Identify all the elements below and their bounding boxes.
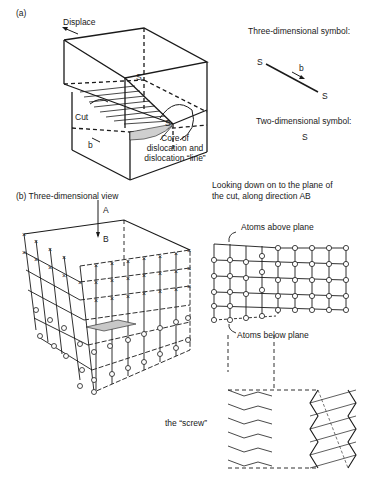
two-d-symbol-title: Two-dimensional symbol: <box>256 116 351 126</box>
svg-text:×: × <box>142 255 146 262</box>
three-d-dislocation-line <box>266 64 318 92</box>
cut-label: Cut <box>75 112 88 122</box>
core-label-line-3: dislocation “line” <box>135 153 215 163</box>
burgers-vector-arrow-icon <box>92 138 100 142</box>
svg-text:×: × <box>142 272 146 279</box>
svg-text:×: × <box>34 256 38 263</box>
svg-text:×: × <box>174 268 178 275</box>
svg-text:×: × <box>126 275 130 282</box>
panel-b-label: (b) Three-dimensional view <box>16 191 118 201</box>
svg-text:×: × <box>48 246 52 253</box>
svg-text:×: × <box>187 265 191 272</box>
svg-text:×: × <box>22 231 26 238</box>
svg-text:×: × <box>174 250 178 257</box>
looking-down-line-2: the cut, along direction AB <box>212 191 311 201</box>
three-d-s2: S <box>322 91 328 101</box>
looking-down-line-1: Looking down on to the plane of <box>212 180 333 190</box>
atoms-above-label: Atoms above plane <box>241 222 314 232</box>
atoms-above-pointer-icon <box>229 232 236 242</box>
svg-text:×: × <box>62 272 66 279</box>
direction-b-label: B <box>103 234 109 244</box>
svg-text:×: × <box>187 247 191 254</box>
s-top-label: S <box>136 72 142 82</box>
burgers-b-label: b <box>88 140 93 150</box>
cut-arrow-icon <box>90 99 108 104</box>
lattice-3d-view <box>24 200 190 392</box>
svg-text:×: × <box>110 295 114 302</box>
svg-text:×: × <box>126 293 130 300</box>
three-d-symbol-title: Three-dimensional symbol: <box>248 26 350 36</box>
svg-text:×: × <box>94 279 98 286</box>
svg-text:×: × <box>94 297 98 304</box>
screw-label: the “screw” <box>165 418 207 428</box>
svg-text:×: × <box>187 283 191 290</box>
svg-text:×: × <box>78 279 82 286</box>
two-d-s: S <box>302 132 308 142</box>
svg-text:×: × <box>94 262 98 269</box>
plan-view-atoms <box>211 245 348 322</box>
direction-a-label: A <box>103 205 109 215</box>
svg-text:×: × <box>142 290 146 297</box>
helix-screw-drawing <box>310 390 356 468</box>
diagram-artwork: ×××× ××××× ××××××× ××××××× ××××××× <box>0 0 374 487</box>
svg-text:×: × <box>158 253 162 260</box>
atoms-below-pointer-icon <box>229 324 236 333</box>
displace-label: Displace <box>63 17 96 27</box>
svg-text:×: × <box>158 288 162 295</box>
three-d-b: b <box>299 63 304 73</box>
three-d-s1: S <box>257 57 263 67</box>
s-core-label: S <box>165 118 171 128</box>
svg-text:×: × <box>126 258 130 265</box>
svg-text:×: × <box>110 260 114 267</box>
core-label-line-2: dislocation and <box>135 143 215 153</box>
svg-text:×: × <box>110 277 114 284</box>
svg-text:×: × <box>174 286 178 293</box>
panel-a-label: (a) <box>16 8 26 18</box>
svg-text:×: × <box>158 270 162 277</box>
screw-atom-stack <box>228 390 272 466</box>
svg-text:×: × <box>22 249 26 256</box>
svg-text:×: × <box>34 238 38 245</box>
core-label-line-1: Core of <box>135 133 215 143</box>
svg-text:×: × <box>48 264 52 271</box>
atoms-below-label: Atoms below plane <box>237 330 309 340</box>
svg-text:×: × <box>62 254 66 261</box>
